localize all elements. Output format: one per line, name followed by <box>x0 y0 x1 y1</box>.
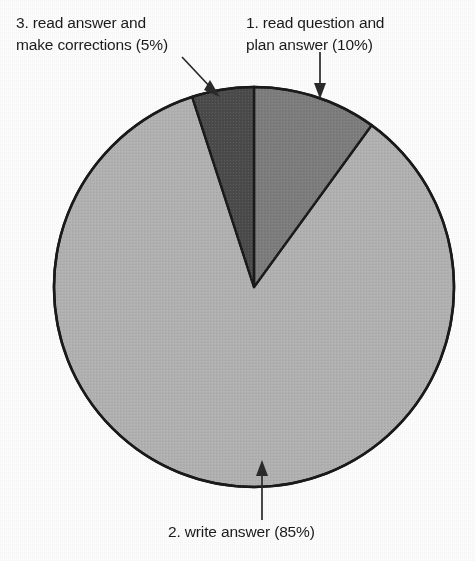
leader-corrections <box>182 57 220 97</box>
leader-plan <box>314 52 326 99</box>
pie-chart-svg <box>0 0 475 561</box>
slice-label-read-question-plan-answer: 1. read question and plan answer (10%) <box>246 12 384 56</box>
pie-chart-figure: 3. read answer and make corrections (5%)… <box>0 0 475 561</box>
slice-label-read-answer-make-corrections: 3. read answer and make corrections (5%) <box>16 12 168 56</box>
slice-label-write-answer: 2. write answer (85%) <box>168 521 315 543</box>
